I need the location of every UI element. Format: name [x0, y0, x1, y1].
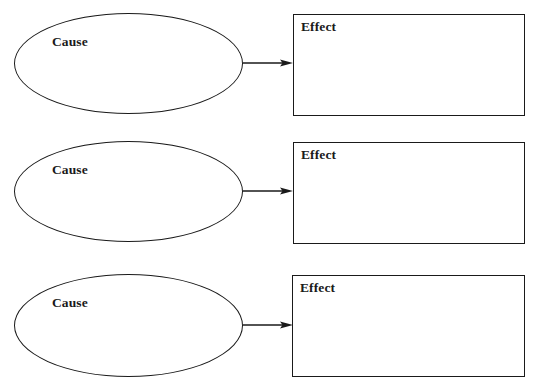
- cause-effect-row-2: Cause Effect: [0, 141, 533, 261]
- cause-effect-diagram: Cause Effect Cause Effect Cause: [0, 0, 533, 392]
- effect-label: Effect: [300, 280, 335, 296]
- effect-box[interactable]: Effect: [293, 14, 525, 116]
- cause-label: Cause: [52, 34, 88, 50]
- effect-label: Effect: [301, 147, 336, 163]
- cause-effect-row-3: Cause Effect: [0, 274, 533, 392]
- cause-label: Cause: [52, 295, 88, 311]
- effect-label: Effect: [301, 19, 336, 35]
- cause-label: Cause: [52, 162, 88, 178]
- cause-effect-row-1: Cause Effect: [0, 13, 533, 133]
- cause-ellipse[interactable]: Cause: [14, 13, 243, 114]
- cause-ellipse[interactable]: Cause: [14, 274, 243, 377]
- effect-box[interactable]: Effect: [293, 142, 525, 244]
- effect-box[interactable]: Effect: [292, 275, 525, 377]
- cause-ellipse[interactable]: Cause: [14, 141, 243, 242]
- arrow-right-icon: [243, 185, 293, 197]
- arrow-right-icon: [243, 319, 293, 331]
- arrow-right-icon: [243, 57, 293, 69]
